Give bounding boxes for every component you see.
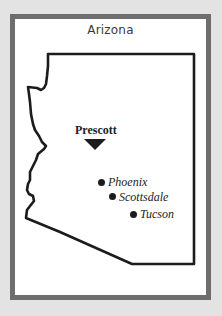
dot-icon xyxy=(109,193,116,200)
city-label-prescott: Prescott xyxy=(75,124,117,136)
dot-icon xyxy=(98,179,105,186)
city-label-scottsdale: Scottsdale xyxy=(119,191,168,203)
city-label-tucson: Tucson xyxy=(140,208,174,220)
triangle-down-icon xyxy=(84,139,106,150)
arizona-state-outline xyxy=(0,0,222,316)
dot-icon xyxy=(130,211,137,218)
city-label-phoenix: Phoenix xyxy=(108,176,147,188)
